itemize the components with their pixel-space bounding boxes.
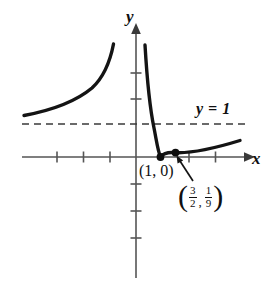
close-paren: ) xyxy=(213,181,223,211)
y-numerator: 1 xyxy=(205,185,213,197)
coordinate-comma: , xyxy=(199,195,202,208)
point-minimum-marker xyxy=(172,149,180,157)
y-coordinate-fraction: 1 9 xyxy=(205,185,213,209)
x-axis xyxy=(22,152,255,163)
x-axis-label: x xyxy=(252,150,261,167)
point-root-marker xyxy=(157,153,165,161)
plot-canvas xyxy=(0,0,277,290)
y-axis xyxy=(131,23,142,278)
y-axis-label: y xyxy=(126,8,134,25)
x-coordinate-fraction: 3 2 xyxy=(189,185,197,209)
asymptote-label: y = 1 xyxy=(196,101,231,117)
x-numerator: 3 xyxy=(189,185,197,197)
function-graph-figure: y x y = 1 (1, 0) ( 3 2 , 1 9 ) xyxy=(0,0,277,290)
curve-left-branch xyxy=(24,44,114,116)
y-denominator: 9 xyxy=(205,197,213,210)
minimum-point-label: ( 3 2 , 1 9 ) xyxy=(178,182,223,212)
callout-arrow xyxy=(177,156,194,182)
x-denominator: 2 xyxy=(189,197,197,210)
open-paren: ( xyxy=(178,181,188,211)
root-point-label: (1, 0) xyxy=(139,163,174,179)
